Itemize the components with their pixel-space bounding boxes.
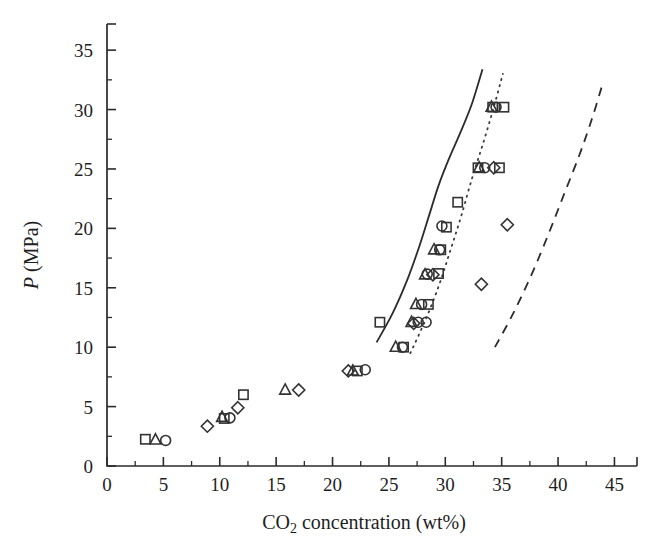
y-tick-label: 35 xyxy=(74,40,93,61)
x-tick-label: 30 xyxy=(436,474,455,495)
y-axis-title: P (MPa) xyxy=(20,221,43,290)
data-point-diamond xyxy=(475,278,487,290)
chart-figure: 05101520253035404505101520253035CO2 conc… xyxy=(0,0,667,558)
scatter-plot-svg: 05101520253035404505101520253035CO2 conc… xyxy=(0,0,667,558)
x-tick-label: 45 xyxy=(605,474,624,495)
data-point-diamond xyxy=(232,402,244,414)
x-tick-label: 5 xyxy=(159,474,169,495)
data-point-square xyxy=(239,390,248,399)
x-tick-label: 20 xyxy=(323,474,342,495)
data-point-diamond xyxy=(293,384,305,396)
y-tick-label: 30 xyxy=(74,100,93,121)
data-point-triangle xyxy=(280,384,291,394)
model-curve-dotted xyxy=(410,74,502,353)
y-tick-label: 20 xyxy=(74,218,93,239)
data-point-square xyxy=(141,435,150,444)
x-tick-label: 35 xyxy=(492,474,511,495)
model-curve-dashed xyxy=(495,86,602,347)
x-tick-label: 0 xyxy=(102,474,112,495)
data-point-diamond xyxy=(501,219,513,231)
y-tick-label: 10 xyxy=(74,337,93,358)
x-tick-label: 40 xyxy=(549,474,568,495)
y-tick-label: 15 xyxy=(74,278,93,299)
axis-spines xyxy=(107,24,637,466)
data-point-square xyxy=(375,318,384,327)
y-tick-label: 0 xyxy=(84,456,94,477)
data-point-square xyxy=(453,198,462,207)
model-curve-solid xyxy=(377,69,483,342)
x-tick-label: 10 xyxy=(210,474,229,495)
data-point-diamond xyxy=(201,420,213,432)
x-tick-label: 15 xyxy=(267,474,286,495)
y-tick-label: 5 xyxy=(84,397,94,418)
x-axis-title: CO2 concentration (wt%) xyxy=(262,511,466,536)
x-tick-label: 25 xyxy=(379,474,398,495)
y-tick-label: 25 xyxy=(74,159,93,180)
data-point-circle xyxy=(161,435,171,445)
data-point-triangle xyxy=(150,434,161,444)
